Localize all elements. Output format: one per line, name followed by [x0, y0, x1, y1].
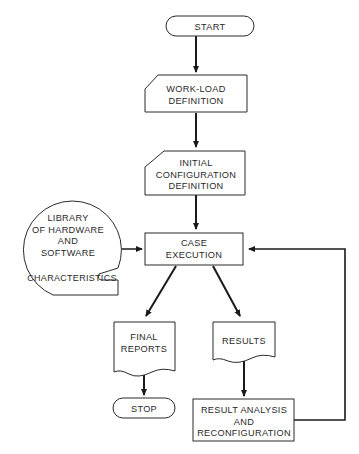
- edge-case-to-final-reports: [146, 266, 176, 316]
- node-final-reports: FINAL REPORTS: [114, 322, 175, 376]
- node-library-label-3: AND: [58, 236, 78, 246]
- node-final-reports-label-1: FINAL: [130, 332, 158, 342]
- node-results: RESULTS: [213, 322, 275, 362]
- node-results-label: RESULTS: [222, 336, 266, 346]
- node-case-label-1: CASE: [181, 238, 207, 248]
- node-config-label-1: INITIAL: [179, 158, 212, 168]
- node-initial-configuration: INITIAL CONFIGURATION DEFINITION: [145, 151, 245, 195]
- node-case-label-2: EXECUTION: [166, 250, 222, 260]
- node-config-label-2: CONFIGURATION: [156, 170, 236, 180]
- node-case-execution: CASE EXECUTION: [145, 233, 243, 265]
- node-result-analysis: RESULT ANALYSIS AND RECONFIGURATION: [193, 399, 294, 441]
- node-start-label: START: [195, 22, 226, 32]
- node-stop: STOP: [113, 398, 175, 418]
- node-analysis-label-2: AND: [234, 417, 254, 427]
- node-workload-label-1: WORK-LOAD: [166, 84, 225, 94]
- node-analysis-label-1: RESULT ANALYSIS: [201, 405, 287, 415]
- node-library-label-2: OF HARDWARE: [32, 225, 104, 235]
- node-library-label-1: LIBRARY: [47, 213, 88, 223]
- node-library-label-5: CHARACTERISTICS: [27, 273, 117, 283]
- node-config-label-3: DEFINITION: [168, 181, 223, 191]
- node-workload-label-2: DEFINITION: [168, 96, 223, 106]
- node-final-reports-label-2: REPORTS: [121, 344, 167, 354]
- node-stop-label: STOP: [131, 404, 157, 414]
- node-library: LIBRARY OF HARDWARE AND SOFTWARE CHARACT…: [23, 201, 121, 295]
- node-start: START: [166, 16, 254, 36]
- node-workload-definition: WORK-LOAD DEFINITION: [145, 75, 247, 112]
- node-library-label-4: SOFTWARE: [41, 248, 95, 258]
- flowchart: START WORK-LOAD DEFINITION INITIAL CONFI…: [0, 0, 359, 454]
- edge-case-to-results: [213, 266, 240, 316]
- node-analysis-label-3: RECONFIGURATION: [197, 428, 291, 438]
